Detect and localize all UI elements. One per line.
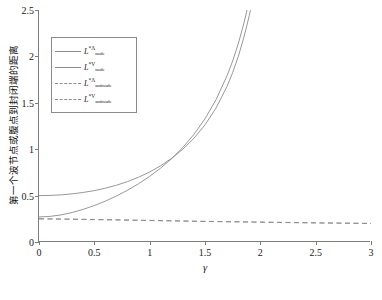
legend-item-L_antinode_V[interactable]: L*Vantinode (55, 91, 132, 107)
y-tick-label: 1.5 (22, 97, 35, 108)
legend-swatch (55, 67, 81, 68)
y-tick-label: 1 (29, 144, 34, 155)
x-tick-label: 2 (258, 247, 263, 258)
legend-swatch (55, 83, 81, 84)
y-tick (35, 10, 39, 11)
y-tick-label: 0 (29, 237, 34, 248)
plot-area: 00.511.522.5 00.511.522.53 γ L*ΛnodeL*Vn… (38, 10, 370, 242)
series-line-L_antinode_V (39, 219, 371, 224)
x-tick (371, 241, 372, 245)
legend-item-L_node_Lambda[interactable]: L*Λnode (55, 43, 132, 59)
chart-legend: L*ΛnodeL*VnodeL*ΛantinodeL*Vantinode (51, 37, 137, 113)
x-tick (150, 241, 151, 245)
x-tick (260, 241, 261, 245)
x-tick-label: 3 (369, 247, 374, 258)
legend-swatch (55, 99, 81, 100)
x-tick (205, 241, 206, 245)
legend-label: L*Λnode (84, 46, 105, 56)
y-tick-label: 2 (29, 51, 34, 62)
legend-label: L*Vantinode (84, 94, 112, 104)
x-tick (316, 241, 317, 245)
legend-label: L*Λantinode (84, 78, 112, 88)
y-tick-label: 0.5 (22, 190, 35, 201)
x-tick (39, 241, 40, 245)
x-tick (94, 241, 95, 245)
x-tick-label: 1.5 (199, 247, 212, 258)
x-tick-label: 2.5 (309, 247, 322, 258)
x-axis-label: γ (203, 262, 207, 273)
x-tick-label: 0.5 (88, 247, 101, 258)
y-tick (35, 149, 39, 150)
y-axis-label: 第一个波节点或腹点到封闭端的距离 (6, 5, 20, 245)
figure: 第一个波节点或腹点到封闭端的距离 00.511.522.5 00.511.522… (0, 0, 382, 300)
x-tick-label: 0 (37, 247, 42, 258)
y-tick (35, 196, 39, 197)
legend-label: L*Vnode (84, 62, 105, 72)
y-tick-label: 2.5 (22, 5, 35, 16)
y-tick (35, 103, 39, 104)
x-tick-label: 1 (147, 247, 152, 258)
legend-item-L_node_V[interactable]: L*Vnode (55, 59, 132, 75)
legend-item-L_antinode_Lambda[interactable]: L*Λantinode (55, 75, 132, 91)
legend-swatch (55, 51, 81, 52)
y-tick (35, 56, 39, 57)
